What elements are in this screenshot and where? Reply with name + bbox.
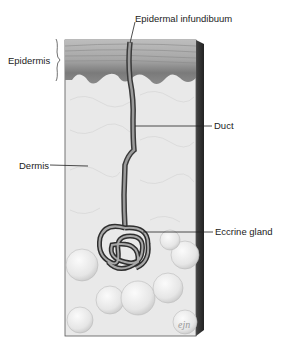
skin-illustration: ejn xyxy=(0,0,285,346)
label-epidermal-infundibulum: Epidermal infundibuum xyxy=(135,13,232,24)
block-side-face xyxy=(196,40,204,336)
artist-signature: ejn xyxy=(178,319,190,330)
label-dermis: Dermis xyxy=(19,160,49,171)
label-duct: Duct xyxy=(214,120,234,131)
epidermis-brace xyxy=(56,39,60,81)
label-eccrine-gland: Eccrine gland xyxy=(215,226,273,237)
label-epidermis: Epidermis xyxy=(8,55,50,66)
